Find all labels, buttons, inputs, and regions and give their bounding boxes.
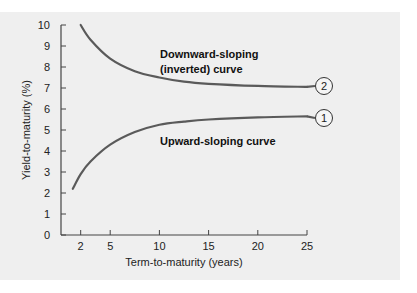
x-tick-label: 15 — [202, 240, 214, 252]
x-tick-label: 25 — [301, 240, 313, 252]
downward-curve-label: (inverted) curve — [160, 63, 243, 75]
series-marker-label: 1 — [321, 112, 327, 124]
marker-leader — [307, 86, 315, 87]
curve-labels: 2Downward-sloping(inverted) curve1Upward… — [160, 48, 333, 147]
downward-curve-label: Downward-sloping — [160, 48, 258, 60]
series-marker-label: 2 — [321, 80, 327, 92]
x-tick-label: 2 — [78, 240, 84, 252]
x-tick-label: 5 — [107, 240, 113, 252]
y-tick-label: 2 — [44, 187, 50, 199]
y-tick-label: 6 — [44, 103, 50, 115]
y-tick-label: 0 — [44, 229, 50, 241]
y-tick-label: 10 — [38, 19, 50, 31]
y-axis-title: Yield-to-maturity (%) — [20, 80, 32, 180]
x-tick-label: 10 — [153, 240, 165, 252]
y-tick-label: 5 — [44, 124, 50, 136]
y-tick-label: 4 — [44, 145, 50, 157]
x-tick-label: 20 — [252, 240, 264, 252]
upward-curve-line — [73, 116, 307, 188]
y-tick-label: 7 — [44, 82, 50, 94]
y-tick-label: 8 — [44, 61, 50, 73]
y-tick-label: 3 — [44, 166, 50, 178]
yield-curve-chart: 0123456789102510152025 2Downward-sloping… — [0, 0, 417, 293]
upward-curve-label: Upward-sloping curve — [160, 135, 276, 147]
marker-leader — [307, 116, 315, 118]
y-tick-label: 1 — [44, 208, 50, 220]
x-axis-title: Term-to-maturity (years) — [125, 256, 242, 268]
y-tick-label: 9 — [44, 40, 50, 52]
